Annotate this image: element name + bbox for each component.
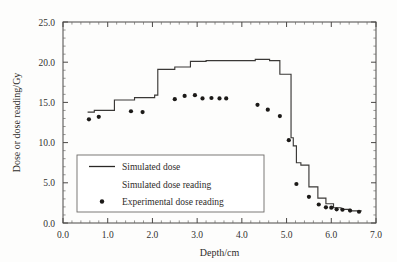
experimental-data-point bbox=[307, 195, 311, 199]
experimental-data-point bbox=[294, 182, 298, 186]
experimental-data-point bbox=[140, 110, 144, 114]
y-tick-label: 10.0 bbox=[38, 138, 55, 148]
chart-legend: Simulated dose Simulated dose reading Ex… bbox=[77, 155, 264, 212]
experimental-data-point bbox=[183, 94, 187, 98]
experimental-data-point bbox=[255, 103, 259, 107]
legend-label-simulated-dose: Simulated dose bbox=[122, 162, 180, 172]
x-tick-label: 4.0 bbox=[236, 230, 248, 240]
x-tick-label: 2.0 bbox=[146, 230, 158, 240]
experimental-data-point bbox=[209, 96, 213, 100]
dose-depth-chart: 0.01.02.03.04.05.06.07.0 0.05.010.015.02… bbox=[0, 0, 397, 262]
y-tick-label: 15.0 bbox=[38, 98, 55, 108]
experimental-data-point bbox=[357, 210, 361, 214]
experimental-data-point bbox=[317, 202, 321, 206]
y-tick-label: 25.0 bbox=[38, 18, 55, 28]
experimental-data-point bbox=[287, 138, 291, 142]
experimental-data-point bbox=[278, 114, 282, 118]
experimental-data-point bbox=[193, 93, 197, 97]
experimental-data-point bbox=[335, 207, 339, 211]
x-tick-label: 7.0 bbox=[370, 230, 382, 240]
experimental-data-point bbox=[173, 97, 177, 101]
y-tick-label: 0.0 bbox=[43, 219, 55, 229]
experimental-data-point bbox=[217, 96, 221, 100]
x-tick-label: 6.0 bbox=[325, 230, 337, 240]
x-tick-label: 5.0 bbox=[281, 230, 293, 240]
y-tick-label: 5.0 bbox=[43, 178, 55, 188]
experimental-data-point bbox=[87, 117, 91, 121]
experimental-data-point bbox=[324, 205, 328, 209]
experimental-data-point bbox=[266, 108, 270, 112]
legend-label-simulated-dose-reading: Simulated dose reading bbox=[122, 180, 211, 190]
experimental-data-point bbox=[340, 208, 344, 212]
legend-dot-swatch bbox=[100, 199, 104, 203]
experimental-data-point bbox=[97, 115, 101, 119]
experimental-data-point bbox=[329, 206, 333, 210]
experimental-data-point bbox=[348, 208, 352, 212]
x-tick-label: 3.0 bbox=[191, 230, 203, 240]
experimental-data-point bbox=[224, 96, 228, 100]
y-tick-label: 20.0 bbox=[38, 58, 55, 68]
y-axis-title: Dose or dose reading/Gy bbox=[11, 73, 22, 173]
experimental-data-point bbox=[129, 109, 133, 113]
x-tick-label: 0.0 bbox=[57, 230, 69, 240]
legend-label-experimental-dose-reading: Experimental dose reading bbox=[122, 197, 224, 207]
x-tick-label: 1.0 bbox=[102, 230, 114, 240]
experimental-data-point bbox=[200, 96, 204, 100]
chart-figure: 0.01.02.03.04.05.06.07.0 0.05.010.015.02… bbox=[0, 0, 397, 262]
x-axis-title: Depth/cm bbox=[200, 247, 240, 258]
